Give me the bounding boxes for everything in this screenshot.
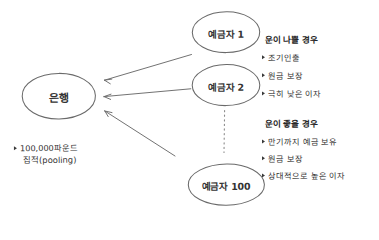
bullet-triangle-icon — [262, 55, 265, 59]
good-luck-item-1: 원금 보장 — [262, 152, 303, 165]
bad-luck-item-2: 극히 낮은 이자 — [262, 87, 321, 100]
bad-luck-item-1: 원금 보장 — [262, 69, 303, 82]
bullet-triangle-icon — [262, 73, 265, 77]
arrow-depositor-2-to-bank — [104, 89, 191, 100]
bullet-triangle-icon — [262, 156, 265, 160]
bad-luck-item-0: 조기인출 — [262, 51, 300, 64]
bullet-triangle-icon — [14, 146, 17, 150]
bullet-triangle-icon — [262, 92, 265, 96]
good-luck-item-2: 상대적으로 높은 이자 — [262, 168, 345, 181]
bullet-triangle-icon — [262, 174, 265, 178]
node-depositor-2-label: 예금자 2 — [192, 80, 260, 95]
arrow-depositor-1-to-bank — [105, 55, 192, 84]
left-note: 100,000파운드 집적(pooling) — [14, 141, 78, 167]
ellipsis-connector — [224, 111, 225, 153]
node-depositor-1-label: 예금자 1 — [192, 27, 260, 42]
bullet-triangle-icon — [262, 140, 265, 144]
good-luck-item-0: 만기까지 예금 보유 — [262, 134, 337, 147]
arrow-depositor-100-to-bank — [105, 111, 175, 156]
good-luck-heading: 운이 좋을 경우 — [265, 117, 318, 130]
bad-luck-heading: 운이 나쁠 경우 — [265, 33, 318, 46]
node-bank-label: 은행 — [22, 88, 96, 106]
left-note-line2: 집적(pooling) — [23, 154, 78, 167]
left-note-line1: 100,000파운드 — [14, 141, 78, 154]
node-depositor-100-label: 예금자 100 — [188, 178, 264, 193]
